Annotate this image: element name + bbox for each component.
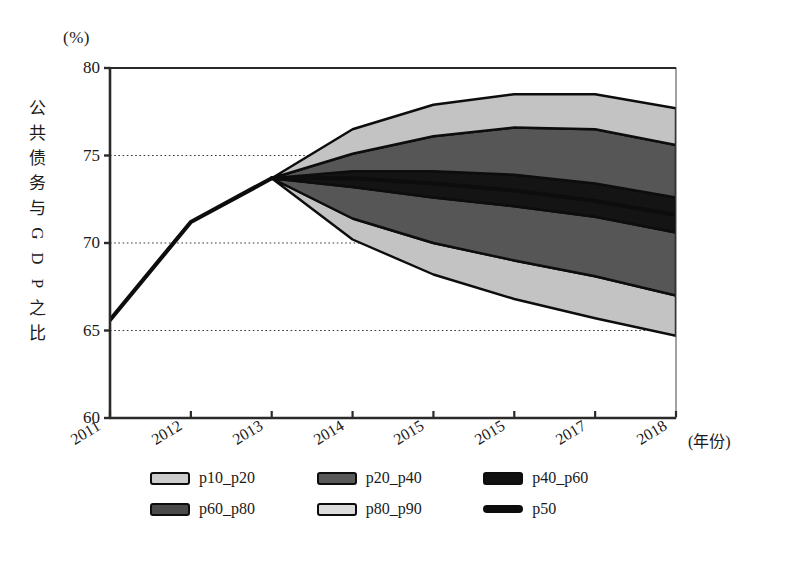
legend-item-label: p20_p40 <box>366 470 422 486</box>
legend-item-p40_p60[interactable]: p40_p60 <box>483 470 650 486</box>
legend-item-label: p40_p60 <box>532 470 588 486</box>
legend-item-label: p60_p80 <box>199 501 255 517</box>
legend-item-p80_p90[interactable]: p80_p90 <box>317 501 484 517</box>
legend-swatch-icon <box>317 503 357 516</box>
fan-chart-figure: (%) 公共债务与GDP之比 8075706560 20112012201320… <box>0 0 785 567</box>
legend-swatch-icon <box>483 472 523 485</box>
legend-swatch-icon <box>483 505 523 513</box>
legend-item-label: p80_p90 <box>366 501 422 517</box>
history-line <box>110 178 272 320</box>
legend-item-p10_p20[interactable]: p10_p20 <box>150 470 317 486</box>
legend: p10_p20p20_p40p40_p60p60_p80p80_p90p50 <box>150 470 650 517</box>
legend-item-label: p50 <box>532 501 556 517</box>
legend-item-p20_p40[interactable]: p20_p40 <box>317 470 484 486</box>
legend-item-p50[interactable]: p50 <box>483 501 650 517</box>
legend-swatch-icon <box>317 472 357 485</box>
legend-item-p60_p80[interactable]: p60_p80 <box>150 501 317 517</box>
fan-bands <box>272 94 676 336</box>
legend-swatch-icon <box>150 472 190 485</box>
legend-item-label: p10_p20 <box>199 470 255 486</box>
legend-swatch-icon <box>150 503 190 516</box>
